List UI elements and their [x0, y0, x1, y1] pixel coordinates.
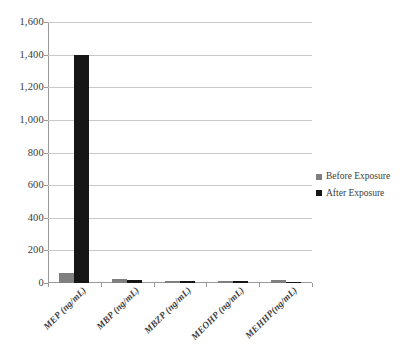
- bar: [74, 55, 89, 283]
- bar: [218, 281, 233, 283]
- y-axis-tick-label: 1,400: [0, 49, 44, 60]
- y-axis-tick-label: 400: [0, 213, 44, 224]
- y-axis-tick-label: 600: [0, 180, 44, 191]
- legend-label: Before Exposure: [326, 172, 390, 182]
- legend-swatch-icon: [316, 190, 322, 196]
- y-axis-tick-label: 0: [0, 278, 44, 289]
- bar-group: [259, 22, 312, 283]
- x-axis-tick: [312, 283, 313, 287]
- bar: [112, 279, 127, 283]
- y-axis-tick-labels: 02004006008001,0001,2001,4001,600: [0, 22, 44, 283]
- x-axis-category-label: MEP (ng/mL): [41, 285, 88, 332]
- bar: [165, 281, 180, 283]
- bar-group: [101, 22, 154, 283]
- x-axis-category-label: MBP (ng/mL): [94, 285, 141, 332]
- bar-group: [48, 22, 101, 283]
- y-axis-tick-label: 200: [0, 245, 44, 256]
- y-axis-tick-label: 1,200: [0, 82, 44, 93]
- chart-legend: Before ExposureAfter Exposure: [316, 172, 390, 198]
- legend-item[interactable]: Before Exposure: [316, 172, 390, 182]
- plot-area: [48, 22, 312, 283]
- bar: [233, 281, 248, 283]
- bar: [271, 280, 286, 283]
- bar-chart: 02004006008001,0001,2001,4001,600 MEP (n…: [0, 0, 412, 363]
- x-axis-category-labels: MEP (ng/mL)MBP (ng/mL)MBZP (ng/mL)MEOHP …: [48, 285, 312, 363]
- x-axis-category-label: MEHHP(ng/mL): [243, 285, 299, 341]
- legend-item[interactable]: After Exposure: [316, 189, 390, 199]
- bar-groups: [48, 22, 312, 283]
- bar-group: [206, 22, 259, 283]
- bar-group: [154, 22, 207, 283]
- legend-swatch-icon: [316, 174, 322, 180]
- legend-label: After Exposure: [326, 189, 384, 199]
- bar: [180, 281, 195, 283]
- y-axis-tick-label: 800: [0, 147, 44, 158]
- x-axis-category-label: MBZP (ng/mL): [143, 285, 194, 336]
- y-axis-tick-label: 1,000: [0, 115, 44, 126]
- bar: [59, 273, 74, 283]
- y-axis-tick-label: 1,600: [0, 17, 44, 28]
- bar: [286, 282, 301, 283]
- x-axis-category-label: MEOHP (ng/mL): [189, 285, 246, 342]
- bar: [127, 280, 142, 283]
